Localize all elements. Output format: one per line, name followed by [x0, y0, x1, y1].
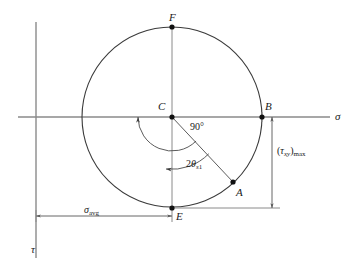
angle-2-theta-s1-label: 2θs1	[186, 159, 202, 171]
point-dot-E	[169, 205, 174, 210]
angle-90-arc	[138, 117, 196, 151]
point-dot-F	[169, 24, 174, 29]
point-label-B: B	[265, 101, 272, 112]
point-label-C: C	[158, 101, 165, 112]
angle-90-label: 90°	[190, 122, 204, 132]
dimension-label-tau-xy-max: (τxy)max	[277, 146, 306, 158]
point-dot-B	[259, 114, 264, 119]
point-dot-C	[169, 114, 174, 119]
sigma-axis-label: σ	[335, 111, 340, 122]
point-label-A: A	[236, 187, 243, 198]
angle-2-theta-s1-subsubscript: 1	[199, 163, 203, 171]
point-dot-A	[230, 179, 235, 184]
tau-axis-label: τ	[31, 244, 35, 255]
point-label-F: F	[169, 12, 176, 23]
point-label-E: E	[176, 211, 183, 222]
tau-xy-max-subscript2: max	[294, 150, 306, 158]
dimension-label-sigma-avg: σavg	[84, 205, 99, 217]
sigma-avg-subscript: avg	[89, 209, 99, 217]
mohr-circle-diagram	[0, 0, 360, 276]
mohrs-circle-figure: F C B A E σ τ 90° 2θs1 σavg (τxy)max	[0, 0, 360, 276]
